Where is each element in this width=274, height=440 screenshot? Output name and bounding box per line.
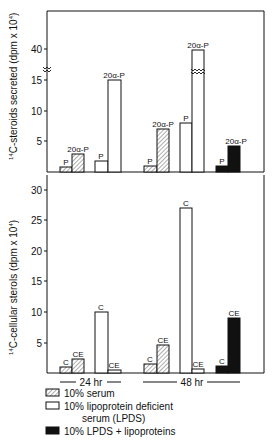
bar-48h-lipo-20aP: [228, 146, 240, 172]
svg-text:CE: CE: [157, 336, 168, 345]
svg-text:25: 25: [31, 215, 43, 226]
svg-text:C: C: [183, 199, 189, 208]
svg-text:P: P: [98, 152, 103, 161]
bar-48h-lipo-C: [216, 366, 228, 373]
x-group-48hr: 48 hr: [181, 377, 204, 388]
svg-text:15: 15: [31, 75, 43, 86]
legend-swatch-lpds: [46, 402, 59, 409]
svg-text:20α-P: 20α-P: [152, 120, 174, 129]
svg-text:10: 10: [31, 307, 43, 318]
svg-text:C: C: [219, 357, 225, 366]
top-bar-labels: P 20α-P P 20α-P P 20α-P P 20α-P P 20α-P: [63, 41, 246, 167]
bar-24h-lpds-P: [95, 161, 108, 172]
svg-text:CE: CE: [228, 309, 239, 318]
bottom-bar-labels: C CE C CE C CE C CE C CE: [63, 199, 239, 370]
bar-24h-serum-CE: [72, 359, 84, 373]
svg-text:30: 30: [31, 185, 43, 196]
svg-text:CE: CE: [192, 360, 203, 369]
bar-48h-lipo-CE: [228, 318, 240, 373]
svg-text:15: 15: [31, 276, 43, 287]
svg-text:C: C: [147, 355, 153, 364]
svg-text:20α-P: 20α-P: [103, 71, 125, 80]
legend-swatch-lipo: [46, 427, 59, 434]
svg-text:20α-P: 20α-P: [187, 41, 209, 50]
svg-text:20: 20: [31, 246, 43, 257]
svg-text:10: 10: [31, 106, 43, 117]
bar-48h-lpds-CE: [192, 369, 204, 373]
bar-24h-lpds-CE: [108, 370, 121, 373]
bar-48h-lpds-C: [180, 208, 192, 373]
bar-24h-serum-20aP: [72, 154, 84, 172]
bar-48h-lipo-P: [216, 166, 228, 172]
bar-24h-serum-C: [60, 367, 72, 373]
bottom-bars: [60, 208, 240, 373]
svg-text:20α-P: 20α-P: [67, 145, 89, 154]
svg-text:C: C: [98, 303, 104, 312]
bar-24h-lpds-C: [95, 312, 108, 373]
svg-text:CE: CE: [72, 350, 83, 359]
legend-label-lpds: 10% lipoprotein deficient: [64, 401, 173, 412]
bar-24h-lpds-20aP: [108, 80, 121, 172]
bar-48h-lpds-20aP: [192, 50, 204, 172]
svg-text:P: P: [63, 158, 68, 167]
top-y-axis-title: 14C-steroids secreted (dpm x 104): [8, 13, 19, 160]
svg-text:P: P: [219, 157, 224, 166]
svg-text:P: P: [147, 157, 152, 166]
bottom-y-axis-title: 14C-cellular sterols (dpm x 104): [8, 220, 19, 355]
svg-text:CE: CE: [108, 361, 119, 370]
bar-48h-serum-P: [144, 166, 157, 172]
bar-48h-serum-20aP: [157, 129, 169, 172]
bottom-y-tick-labels: 30 25 20 15 10 5: [31, 185, 43, 349]
svg-text:5: 5: [36, 136, 42, 147]
bar-24h-serum-P: [60, 167, 72, 172]
svg-text:5: 5: [36, 338, 42, 349]
legend-swatch-serum: [46, 389, 59, 396]
top-y-tick-labels: 40 15 10 5: [31, 44, 43, 147]
svg-text:C: C: [63, 358, 69, 367]
legend: 10% serum 10% lipoprotein deficient seru…: [46, 388, 175, 437]
legend-label-lpds-2: serum (LPDS): [82, 413, 145, 424]
x-group-24hr: 24 hr: [80, 377, 103, 388]
bar-48h-lpds-P: [180, 123, 192, 172]
svg-text:40: 40: [31, 44, 43, 55]
legend-label-lipo: 10% LPDS + lipoproteins: [64, 426, 175, 437]
legend-label-serum: 10% serum: [64, 388, 115, 399]
bar-48h-serum-CE: [157, 345, 169, 373]
bar-48h-serum-C: [144, 364, 157, 373]
svg-text:20α-P: 20α-P: [225, 137, 247, 146]
chart-figure: 40 15 10 5 P 20α-P P 20α-P P 20α-P: [0, 0, 274, 440]
svg-text:P: P: [183, 114, 188, 123]
